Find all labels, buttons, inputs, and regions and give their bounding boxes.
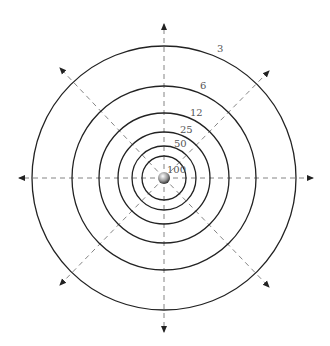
diagram-canvas: 36122550100: [0, 0, 330, 346]
ring-label: 100: [167, 164, 186, 175]
ring-label: 50: [174, 138, 187, 149]
ring-labels: 36122550100: [167, 43, 223, 175]
concentric-ring-diagram: 36122550100: [0, 0, 330, 346]
ring-label: 12: [190, 107, 203, 118]
axis-arrow-down-right: [164, 178, 269, 287]
ring-label: 3: [217, 43, 223, 54]
ring-label: 6: [200, 80, 206, 91]
ring-label: 25: [180, 124, 193, 135]
source-sphere-icon: [158, 172, 170, 184]
axis-arrow-up-left: [60, 68, 164, 178]
